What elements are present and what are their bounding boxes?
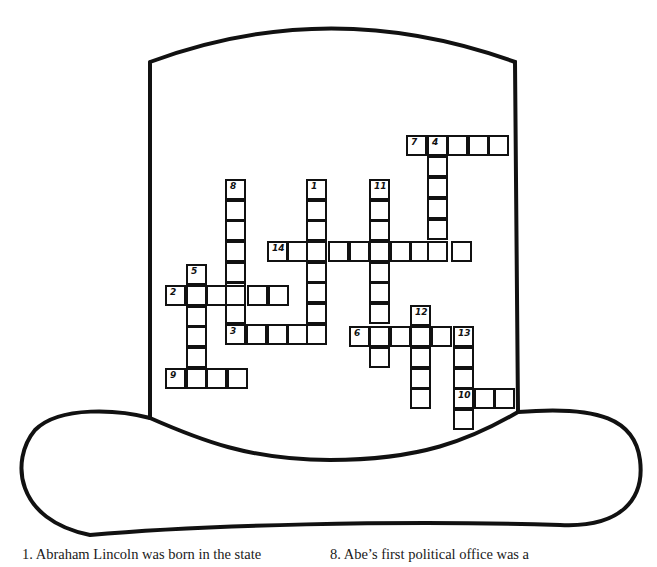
clue-number: 2 bbox=[170, 287, 176, 297]
crossword-cell[interactable] bbox=[427, 219, 448, 240]
clue-8: 8. Abe’s first political office was a bbox=[330, 546, 529, 563]
crossword-cell[interactable] bbox=[225, 200, 246, 221]
crossword-cell[interactable] bbox=[468, 135, 489, 156]
crossword-cell[interactable] bbox=[206, 285, 227, 306]
crossword-cell[interactable] bbox=[369, 326, 390, 347]
crossword-cell[interactable] bbox=[447, 135, 468, 156]
crossword-cell[interactable] bbox=[488, 135, 509, 156]
crossword-cell[interactable] bbox=[369, 347, 390, 368]
crossword-cell[interactable] bbox=[410, 347, 431, 368]
crossword-cell[interactable] bbox=[369, 241, 390, 262]
crossword-cell[interactable] bbox=[453, 368, 474, 389]
crossword-cell[interactable] bbox=[369, 262, 390, 283]
crossword-cell[interactable] bbox=[410, 326, 431, 347]
crossword-cell[interactable]: 12 bbox=[410, 305, 431, 326]
crossword-cell[interactable] bbox=[369, 282, 390, 303]
clue-number: 1 bbox=[311, 181, 317, 191]
crossword-cell[interactable] bbox=[268, 285, 289, 306]
crossword-cell[interactable] bbox=[306, 200, 327, 221]
clue-number: 8 bbox=[230, 181, 236, 191]
clue-number: 12 bbox=[415, 307, 428, 317]
crossword-cell[interactable]: 14 bbox=[267, 241, 288, 262]
crossword-cell[interactable] bbox=[306, 262, 327, 283]
crossword-cell[interactable] bbox=[225, 241, 246, 262]
crossword-cell[interactable] bbox=[246, 324, 267, 345]
crossword-cell[interactable] bbox=[287, 241, 308, 262]
crossword-cell[interactable] bbox=[390, 241, 411, 262]
crossword-cell[interactable] bbox=[369, 220, 390, 241]
crossword-cell[interactable] bbox=[186, 306, 207, 327]
crossword-cell[interactable] bbox=[494, 388, 515, 409]
crossword-cell[interactable] bbox=[225, 220, 246, 241]
clue-number: 6 bbox=[354, 328, 360, 338]
crossword-cell[interactable] bbox=[328, 241, 349, 262]
crossword-cell[interactable] bbox=[427, 241, 448, 262]
crossword-cell[interactable]: 5 bbox=[186, 264, 207, 285]
crossword-cell[interactable]: 13 bbox=[453, 326, 474, 347]
crossword-cell[interactable]: 6 bbox=[349, 326, 370, 347]
crossword-cell[interactable] bbox=[431, 326, 452, 347]
crossword-cell[interactable] bbox=[451, 241, 472, 262]
clue-number: 10 bbox=[458, 390, 471, 400]
clue-1: 1. Abraham Lincoln was born in the state bbox=[22, 546, 261, 563]
crossword-cell[interactable]: 11 bbox=[369, 179, 390, 200]
crossword-cell[interactable] bbox=[186, 368, 207, 389]
crossword-cell[interactable] bbox=[225, 285, 246, 306]
clue-number: 4 bbox=[432, 137, 438, 147]
crossword-cell[interactable]: 3 bbox=[225, 324, 246, 345]
crossword-cell[interactable] bbox=[306, 220, 327, 241]
clue-number: 7 bbox=[411, 137, 417, 147]
crossword-cell[interactable] bbox=[306, 324, 327, 345]
crossword-cell[interactable] bbox=[186, 326, 207, 347]
crossword-cell[interactable]: 1 bbox=[306, 179, 327, 200]
crossword-cell[interactable] bbox=[390, 326, 411, 347]
crossword-cell[interactable] bbox=[225, 262, 246, 283]
crossword-cell[interactable] bbox=[453, 409, 474, 430]
crossword-cell[interactable] bbox=[227, 368, 248, 389]
crossword-cell[interactable] bbox=[267, 324, 288, 345]
crossword-cell[interactable] bbox=[410, 388, 431, 409]
clue-number: 13 bbox=[458, 328, 471, 338]
crossword-cell[interactable] bbox=[186, 285, 207, 306]
crossword-cell[interactable] bbox=[287, 324, 308, 345]
crossword-cell[interactable] bbox=[410, 368, 431, 389]
crossword-cell[interactable] bbox=[349, 241, 370, 262]
crossword-cell[interactable] bbox=[427, 198, 448, 219]
crossword-cell[interactable] bbox=[225, 303, 246, 324]
clue-number: 5 bbox=[191, 266, 197, 276]
crossword-cell[interactable]: 9 bbox=[165, 368, 186, 389]
crossword-cell[interactable] bbox=[206, 368, 227, 389]
clue-number: 3 bbox=[230, 326, 236, 336]
crossword-cell[interactable] bbox=[427, 156, 448, 177]
crossword-cell[interactable] bbox=[247, 285, 268, 306]
crossword-cell[interactable]: 8 bbox=[225, 179, 246, 200]
crossword-cell[interactable]: 7 bbox=[406, 135, 427, 156]
crossword-cell[interactable] bbox=[369, 303, 390, 324]
crossword-cell[interactable]: 10 bbox=[453, 388, 474, 409]
crossword-cell[interactable] bbox=[306, 241, 327, 262]
crossword-cell[interactable] bbox=[186, 347, 207, 368]
top-hat-outline bbox=[0, 0, 657, 545]
crossword-cell[interactable]: 4 bbox=[427, 135, 448, 156]
crossword-cell[interactable] bbox=[474, 388, 495, 409]
crossword-cell[interactable] bbox=[369, 200, 390, 221]
crossword-cell[interactable]: 2 bbox=[165, 285, 186, 306]
crossword-cell[interactable] bbox=[453, 347, 474, 368]
crossword-cell[interactable] bbox=[306, 282, 327, 303]
clue-number: 11 bbox=[374, 181, 387, 191]
crossword-cell[interactable] bbox=[306, 303, 327, 324]
clue-number: 14 bbox=[272, 243, 285, 253]
hat-brim bbox=[21, 410, 640, 535]
crossword-cell[interactable] bbox=[427, 177, 448, 198]
clue-number: 9 bbox=[170, 370, 176, 380]
